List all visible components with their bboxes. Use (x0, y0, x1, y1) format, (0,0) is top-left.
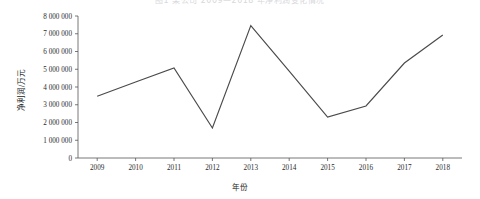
y-tick-label: 0 (68, 155, 72, 163)
x-tick-label: 2015 (320, 164, 335, 172)
chart-canvas: 01 000 0002 000 0003 000 0004 000 0005 0… (0, 0, 480, 199)
plot-area (97, 26, 443, 128)
y-tick-label: 4 000 000 (43, 84, 72, 92)
x-axis-title: 年份 (232, 182, 248, 192)
y-tick-label: 3 000 000 (43, 101, 72, 109)
y-tick-label: 1 000 000 (43, 137, 72, 145)
x-tick-label: 2010 (128, 164, 143, 172)
x-tick-label: 2009 (90, 164, 105, 172)
x-tick-label: 2011 (167, 164, 182, 172)
x-tick-label: 2018 (436, 164, 451, 172)
y-tick-label: 8 000 000 (43, 13, 72, 21)
x-axis: 2009201020112012201320142015201620172018 (78, 158, 462, 172)
line-chart: 图1 某公司 2009—2018 年净利润变化情况 01 000 0002 00… (0, 0, 480, 199)
y-tick-label: 7 000 000 (43, 30, 72, 38)
series-line-net-profit (97, 26, 443, 128)
x-tick-label: 2013 (244, 164, 259, 172)
x-tick-label: 2016 (359, 164, 374, 172)
y-tick-group: 01 000 0002 000 0003 000 0004 000 0005 0… (43, 13, 78, 163)
y-tick-label: 5 000 000 (43, 66, 72, 74)
x-tick-label: 2014 (282, 164, 297, 172)
x-tick-label: 2012 (205, 164, 220, 172)
x-tick-label: 2017 (397, 164, 412, 172)
y-axis: 01 000 0002 000 0003 000 0004 000 0005 0… (43, 13, 78, 163)
x-tick-group: 2009201020112012201320142015201620172018 (90, 158, 450, 172)
y-tick-label: 6 000 000 (43, 48, 72, 56)
y-tick-label: 2 000 000 (43, 119, 72, 127)
y-axis-title: 净利润/万元 (16, 69, 26, 112)
